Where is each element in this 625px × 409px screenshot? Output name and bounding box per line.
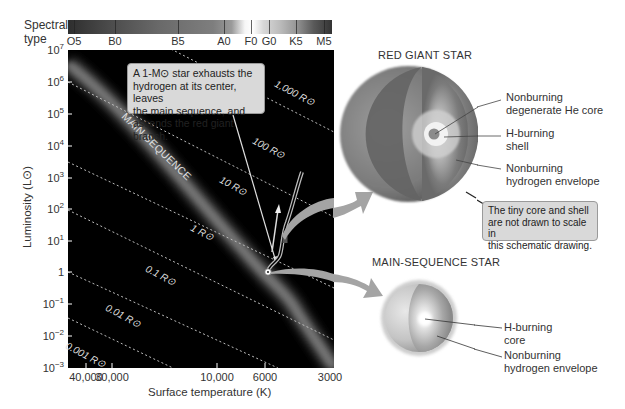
tick-exponent: 7 [60, 42, 64, 51]
track-callout: A 1-M⊙ star exhausts the hydrogen at its… [127, 63, 265, 114]
spectral-class-label: B5 [171, 35, 184, 47]
tick-base: 10 [47, 235, 59, 247]
red-giant-title: RED GIANT STAR [378, 49, 472, 61]
spectral-title-line1: Spectral [24, 18, 62, 32]
x-tick-label: 6000 [253, 371, 277, 383]
label-line: Nonburning [506, 91, 603, 104]
label-ms-hydrogen-envelope: Nonburning hydrogen envelope [504, 349, 598, 375]
y-tick-label: 106 [28, 74, 64, 88]
tick-base: 10 [47, 140, 59, 152]
spectral-class-label: K5 [289, 35, 302, 47]
x-tick-label: 3000 [318, 371, 342, 383]
label-line: hydrogen envelope [506, 175, 600, 188]
y-tick-label: 10−2 [28, 328, 64, 342]
tick-exponent: 3 [60, 170, 64, 179]
label-line: degenerate He core [506, 104, 603, 117]
y-tick-label: 1 [28, 264, 64, 278]
tick-base: 1 [58, 266, 64, 278]
note-line1: The tiny core and shell [488, 205, 592, 217]
spectral-tick-mark [296, 20, 297, 34]
spectral-tick-mark [178, 20, 179, 34]
label-h-burning-core: H-burning core [504, 321, 552, 347]
tick-exponent: 5 [60, 106, 64, 115]
tick-exponent: −2 [55, 328, 64, 337]
spectral-tick-mark [115, 20, 116, 34]
y-tick-label: 102 [28, 201, 64, 215]
tick-base: 10 [47, 172, 59, 184]
scale-note-callout: The tiny core and shell are not drawn to… [482, 201, 598, 241]
tick-base: 10 [43, 330, 55, 342]
spectral-class-label: G0 [262, 35, 277, 47]
spectral-class-label: M5 [316, 35, 331, 47]
label-line: Nonburning [506, 162, 600, 175]
tick-base: 10 [47, 76, 59, 88]
tick-exponent: 6 [60, 74, 64, 83]
label-h-burning-shell: H-burning shell [506, 127, 554, 153]
spectral-tick-mark [224, 20, 225, 34]
y-tick-label: 104 [28, 138, 64, 152]
label-line: core [504, 334, 552, 347]
spectral-tick-mark [74, 20, 75, 34]
spectral-class-label: B0 [108, 35, 121, 47]
tick-base: 10 [43, 362, 55, 374]
spectral-tick-mark [269, 20, 270, 34]
y-tick-label: 105 [28, 106, 64, 120]
spectral-class-label: F0 [245, 35, 258, 47]
main-sequence-star-illustration [375, 274, 475, 364]
tick-base: 10 [43, 298, 55, 310]
y-tick-label: 103 [28, 170, 64, 184]
spectral-tick-mark [251, 20, 252, 34]
tick-exponent: 1 [60, 233, 64, 242]
x-axis-title: Surface temperature (K) [148, 386, 271, 398]
tick-exponent: −1 [55, 296, 64, 305]
callout-line3: the main sequence, and [133, 105, 259, 118]
label-line: H-burning [504, 321, 552, 334]
callout-line1: A 1-M⊙ star exhausts the [133, 67, 259, 80]
spectral-class-label: O5 [67, 35, 82, 47]
ms-pointer-ext [474, 320, 504, 360]
label-degenerate-he-core: Nonburning degenerate He core [506, 91, 603, 117]
spectral-tick-mark [324, 20, 325, 34]
tick-base: 10 [47, 203, 59, 215]
callout-line2: hydrogen at its center, leaves [133, 80, 259, 105]
label-rg-hydrogen-envelope: Nonburning hydrogen envelope [506, 162, 600, 188]
x-tick-label: 10,000 [200, 371, 234, 383]
spectral-class-label: A0 [217, 35, 230, 47]
y-tick-label: 10−3 [28, 360, 64, 374]
tick-base: 10 [47, 108, 59, 120]
label-line: H-burning [506, 127, 554, 140]
tick-exponent: 4 [60, 138, 64, 147]
note-line2: are not drawn to scale in [488, 217, 592, 240]
note-line3: this schematic drawing. [488, 240, 592, 252]
y-tick-label: 107 [28, 42, 64, 56]
label-line: Nonburning [504, 349, 598, 362]
main-sequence-star-title: MAIN-SEQUENCE STAR [372, 256, 500, 268]
tick-base: 10 [47, 44, 59, 56]
red-giant-star-illustration [338, 64, 478, 204]
label-line: hydrogen envelope [504, 362, 598, 375]
callout-line4: ascends the red giant branch. [133, 117, 259, 142]
y-tick-label: 10−1 [28, 296, 64, 310]
y-tick-label: 101 [28, 233, 64, 247]
spectral-color-bar [68, 20, 332, 34]
tick-exponent: −3 [55, 360, 64, 369]
tick-exponent: 2 [60, 201, 64, 210]
x-tick-label: 30,000 [95, 371, 129, 383]
label-line: shell [506, 140, 554, 153]
